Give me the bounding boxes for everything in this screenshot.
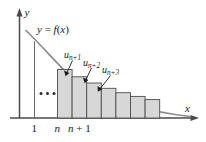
x-axis-arrowhead bbox=[191, 115, 200, 121]
bar-rect-7 bbox=[145, 100, 160, 118]
bar-rect-2 bbox=[72, 77, 87, 118]
bar-label-u-n-plus-1: un+1 bbox=[64, 49, 81, 62]
x-tick-label-n-plus-1-rest: + 1 bbox=[74, 122, 91, 134]
bar-rect-5 bbox=[116, 93, 131, 118]
y-axis-arrowhead bbox=[16, 8, 22, 17]
integral-test-figure: y x y = f(x) un+1 un+2 un+3 1 n n + 1 bbox=[0, 0, 206, 142]
figure-container: y x y = f(x) un+1 un+2 un+3 1 n n + 1 bbox=[0, 0, 206, 142]
bar-label-u-n-plus-2: un+2 bbox=[83, 57, 100, 70]
bar-rect-1 bbox=[58, 70, 73, 119]
x-axis-label: x bbox=[184, 102, 190, 114]
bar-label-u-n-plus-2-sub: n+2 bbox=[88, 62, 100, 70]
ellipsis-dots bbox=[40, 92, 56, 95]
x-tick-label-n-plus-1: n + 1 bbox=[68, 122, 91, 134]
curve-label-equals: = bbox=[42, 23, 54, 35]
x-tick-label-1: 1 bbox=[32, 122, 38, 134]
curve-label: y = f(x) bbox=[36, 23, 69, 36]
curve-label-close-paren: ) bbox=[65, 23, 69, 36]
bar-label-u-n-plus-3-sub: n+3 bbox=[107, 69, 119, 77]
bar-label-u-n-plus-1-sub: n+1 bbox=[69, 54, 81, 62]
bar-rect-6 bbox=[131, 96, 146, 118]
leader-line-u-n-plus-3 bbox=[100, 76, 111, 90]
bar-rect-4 bbox=[101, 88, 116, 118]
x-tick-label-n: n bbox=[55, 122, 61, 134]
y-axis-label: y bbox=[24, 6, 30, 18]
bar-label-u-n-plus-3: un+3 bbox=[102, 64, 119, 77]
